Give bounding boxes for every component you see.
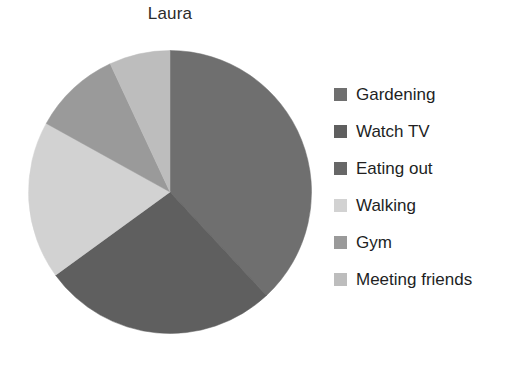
legend-item-label: Meeting friends — [356, 271, 472, 288]
legend-item: Eating out — [334, 150, 530, 187]
legend-item-label: Walking — [356, 197, 416, 214]
pie-slice-group — [28, 51, 311, 334]
legend-item-label: Gym — [356, 234, 392, 251]
legend-item-label: Eating out — [356, 160, 433, 177]
legend-item: Meeting friends — [334, 261, 530, 298]
chart-legend: GardeningWatch TVEating outWalkingGymMee… — [334, 76, 530, 298]
pie-chart-figure: Laura GardeningWatch TVEating outWalking… — [0, 0, 532, 373]
legend-swatch-icon — [334, 273, 347, 286]
legend-item: Gardening — [334, 76, 530, 113]
legend-item-label: Watch TV — [356, 123, 430, 140]
legend-item: Gym — [334, 224, 530, 261]
chart-title: Laura — [0, 4, 340, 24]
pie-plot-area — [28, 50, 312, 334]
legend-item: Walking — [334, 187, 530, 224]
legend-swatch-icon — [334, 88, 347, 101]
legend-item: Watch TV — [334, 113, 530, 150]
legend-swatch-icon — [334, 199, 347, 212]
legend-swatch-icon — [334, 236, 347, 249]
legend-item-label: Gardening — [356, 86, 435, 103]
legend-swatch-icon — [334, 125, 347, 138]
pie-svg — [28, 50, 312, 334]
legend-swatch-icon — [334, 162, 347, 175]
